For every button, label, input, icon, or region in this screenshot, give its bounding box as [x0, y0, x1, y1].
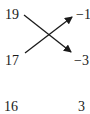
arrow-19-to-neg3 [24, 15, 71, 52]
mapping-arrows [0, 0, 90, 114]
